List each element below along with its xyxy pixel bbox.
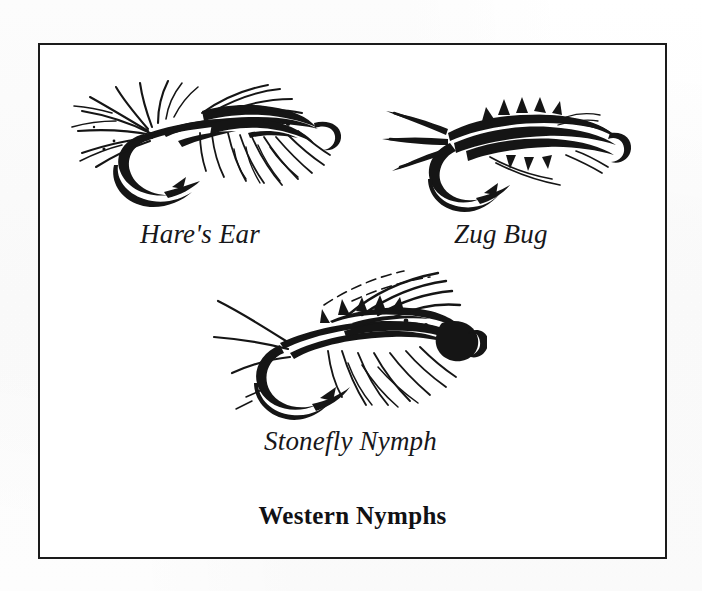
plate-frame: Hare's Ear Zug Bug Stonefly Nymph Wester…	[38, 43, 667, 559]
caption-stonefly-nymph: Stonefly Nymph	[264, 426, 437, 457]
stonefly-nymph-fly-icon	[202, 265, 487, 430]
plate-title: Western Nymphs	[40, 502, 665, 530]
caption-zug-bug: Zug Bug	[454, 219, 548, 250]
scanned-page: Hare's Ear Zug Bug Stonefly Nymph Wester…	[0, 0, 702, 591]
zug-bug-fly-icon	[370, 81, 635, 216]
caption-hares-ear: Hare's Ear	[140, 219, 260, 250]
hares-ear-fly-icon	[52, 61, 352, 226]
